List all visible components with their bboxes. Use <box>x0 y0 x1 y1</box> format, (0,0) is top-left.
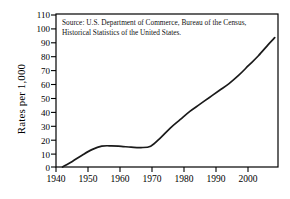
x-tick-label: 2000 <box>228 174 268 185</box>
chart-container: Rates per 1,000 110 100 90 80 70 60 50 4… <box>0 0 290 199</box>
source-annotation: Source: U.S. Department of Commerce, Bur… <box>62 18 262 37</box>
